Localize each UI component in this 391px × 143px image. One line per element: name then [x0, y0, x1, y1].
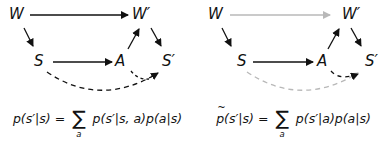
edge-a-to-sprime-dashed [131, 71, 149, 79]
formula-full: p(s′|s) = ∑ a p(s′|s, a)p(a|s) [0, 109, 195, 129]
node-s-prime: S′ [365, 54, 378, 69]
formula-lhs: p(s′|s) [13, 111, 51, 126]
sum-symbol: ∑ [72, 106, 85, 130]
edge-s-to-sprime-dashed [47, 72, 158, 90]
formula-equals: = [258, 111, 268, 126]
node-a: A [115, 54, 125, 69]
formula-rhs: p(s′|s, a)p(a|s) [93, 111, 182, 126]
formula-reduced: p(s′|s) = ∑ a p(s′|a)p(a|s) [196, 109, 391, 129]
node-w-prime: W′ [342, 7, 360, 22]
node-w: W [9, 7, 24, 22]
node-s-prime: S′ [162, 54, 175, 69]
edge-w-to-s [222, 28, 231, 46]
edge-wprime-to-sprime [351, 28, 361, 46]
causal-diagram-full: W W′ S A S′ p(s′|s) = ∑ a p(s′|s, a)p(a|… [0, 0, 195, 143]
summation: ∑ a [275, 109, 288, 129]
edge-wprime-to-sprime [151, 28, 161, 46]
edge-a-to-wprime [128, 29, 139, 49]
formula-lhs-p-tilde: p [216, 111, 224, 126]
edge-w-to-s [24, 28, 33, 46]
summation: ∑ a [72, 109, 85, 129]
formula-equals: = [55, 111, 65, 126]
edge-a-to-wprime [328, 29, 339, 49]
edge-s-to-sprime-dashed-faded [247, 72, 358, 90]
causal-diagram-reduced: W W′ S A S′ p(s′|s) = ∑ a p(s′|a)p(a|s) [196, 0, 391, 143]
node-s: S [34, 54, 44, 69]
node-w: W [208, 7, 223, 22]
edge-a-to-sprime-dashed [331, 71, 358, 77]
graph-edges [196, 0, 391, 100]
node-w-prime: W′ [132, 7, 150, 22]
sum-symbol: ∑ [275, 106, 288, 130]
node-s: S [237, 54, 247, 69]
formula-lhs: (s′|s) [224, 111, 254, 126]
sum-index: a [76, 129, 81, 139]
graph-edges [0, 0, 195, 100]
sum-index: a [280, 129, 285, 139]
formula-rhs: p(s′|a)p(a|s) [296, 111, 371, 126]
node-a: A [317, 54, 327, 69]
